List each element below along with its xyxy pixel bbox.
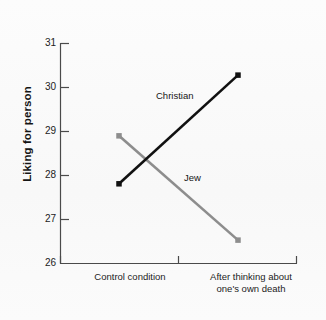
data-point-jew-control: [116, 133, 122, 139]
data-point-christian-death: [235, 72, 241, 78]
x-tick-label-death-line1: After thinking about: [188, 271, 314, 283]
data-point-christian-control: [116, 181, 122, 187]
series-line-jew: [119, 136, 238, 240]
chart-figure: Liking for person 31 30 29 28 27 26 Chri…: [0, 0, 326, 320]
x-tick-label-control: Control condition: [70, 271, 190, 283]
x-tick-label-death-line2: one's own death: [188, 283, 314, 295]
data-point-jew-death: [235, 237, 241, 243]
series-label-christian: Christian: [156, 90, 194, 101]
series-label-jew: Jew: [184, 172, 201, 183]
